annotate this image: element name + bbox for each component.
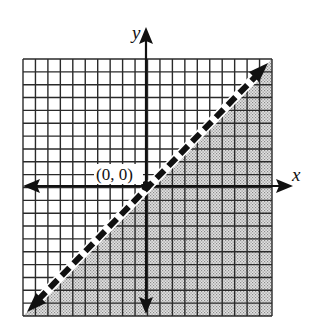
inequality-graph: y x (0, 0) [0,0,313,330]
y-axis-label: y [130,22,141,43]
x-axis-label: x [291,164,301,185]
origin-label: (0, 0) [96,165,133,184]
